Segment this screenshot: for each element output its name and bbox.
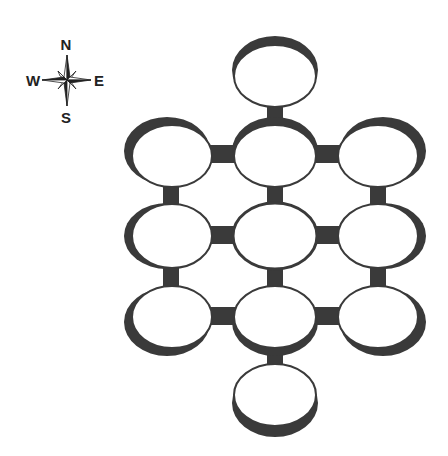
room-top[interactable] [232,36,318,107]
room-row3-right[interactable] [338,286,426,356]
compass-north-label: N [61,36,72,53]
rooms [124,36,426,437]
room-row1-left[interactable] [124,117,212,187]
room-row3-center[interactable] [232,286,318,356]
room-row3-left[interactable] [124,286,212,356]
room-row2-right[interactable] [338,203,426,269]
compass-east-label: E [94,72,104,89]
compass-rose-icon: N S W E [26,36,104,126]
room-bottom[interactable] [232,364,318,437]
dungeon-map: N S W E [0,0,448,456]
compass-south-label: S [61,109,71,126]
room-row2-left[interactable] [124,203,212,269]
compass-west-label: W [26,72,41,89]
room-row2-center[interactable] [233,203,317,269]
room-row1-right[interactable] [338,117,426,187]
room-row1-center[interactable] [232,117,318,187]
